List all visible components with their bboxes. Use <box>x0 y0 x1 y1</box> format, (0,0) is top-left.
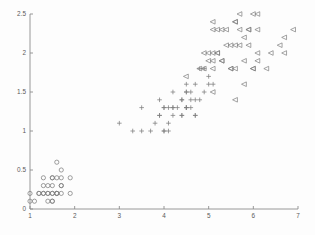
y-tick-label: 2.5 <box>17 10 26 17</box>
data-point-triangle-left <box>277 43 282 48</box>
data-point-plus <box>162 129 167 134</box>
data-point-plus <box>117 121 122 126</box>
data-point-plus <box>189 90 194 95</box>
data-point-plus <box>184 82 189 87</box>
data-point-plus <box>166 129 171 134</box>
data-point-triangle-left <box>255 59 260 64</box>
data-point-circle <box>46 199 50 203</box>
data-point-circle <box>59 168 63 172</box>
data-point-plus <box>197 98 202 103</box>
data-point-triangle-left <box>268 51 273 56</box>
series-group-circle <box>28 160 72 203</box>
data-point-plus <box>162 105 167 110</box>
data-point-plus <box>193 113 198 118</box>
data-point-triangle-left <box>233 20 238 25</box>
data-point-triangle-left <box>242 35 247 40</box>
data-point-circle <box>55 176 59 180</box>
y-tick-label: 0.5 <box>17 166 26 173</box>
data-point-plus <box>189 98 194 103</box>
data-point-triangle-left <box>183 74 188 79</box>
data-points-group <box>28 12 296 204</box>
data-point-triangle-left <box>210 66 215 71</box>
data-point-circle <box>55 160 59 164</box>
data-point-plus <box>139 129 144 134</box>
scatter-plot-figure: 123456700.511.522.5 <box>0 0 315 235</box>
x-tick-label: 2 <box>73 212 77 219</box>
data-point-circle <box>41 176 45 180</box>
data-point-triangle-left <box>246 43 251 48</box>
y-tick-label: 1.5 <box>17 88 26 95</box>
data-point-plus <box>153 121 158 126</box>
data-point-circle <box>55 191 59 195</box>
data-point-triangle-left <box>219 59 224 64</box>
data-point-plus <box>206 82 211 87</box>
data-point-plus <box>130 129 135 134</box>
data-point-plus <box>211 82 216 87</box>
data-point-circle <box>46 191 50 195</box>
data-point-circle <box>68 176 72 180</box>
data-point-plus <box>206 74 211 79</box>
data-point-plus <box>184 105 189 110</box>
y-tick-label: 0 <box>22 205 26 212</box>
data-point-circle <box>32 199 36 203</box>
data-point-plus <box>193 82 198 87</box>
plot-canvas: 123456700.511.522.5 <box>0 0 315 235</box>
data-point-plus <box>180 98 185 103</box>
data-point-triangle-left <box>264 66 269 71</box>
data-point-circle <box>50 199 54 203</box>
data-point-plus <box>166 121 171 126</box>
data-point-triangle-left <box>210 20 215 25</box>
y-tick-label: 2 <box>22 49 26 56</box>
data-point-plus <box>202 90 207 95</box>
data-point-plus <box>184 90 189 95</box>
data-point-plus <box>171 90 176 95</box>
data-point-circle <box>59 184 63 188</box>
data-point-plus <box>157 113 162 118</box>
data-point-triangle-left <box>242 59 247 64</box>
data-point-plus <box>193 98 198 103</box>
x-tick-label: 7 <box>296 212 300 219</box>
data-point-plus <box>139 105 144 110</box>
x-tick-label: 6 <box>252 212 256 219</box>
data-point-circle <box>50 176 54 180</box>
data-point-circle <box>46 184 50 188</box>
series-group-plus <box>117 66 215 133</box>
data-point-triangle-left <box>237 12 242 17</box>
data-point-triangle-left <box>246 27 251 32</box>
data-point-triangle-left <box>255 27 260 32</box>
y-tick-label: 1 <box>22 127 26 134</box>
data-point-triangle-left <box>255 51 260 56</box>
data-point-triangle-left <box>210 90 215 95</box>
data-point-plus <box>171 105 176 110</box>
x-tick-label: 5 <box>207 212 211 219</box>
tick-labels-group: 123456700.511.522.5 <box>17 10 300 219</box>
data-point-circle <box>68 191 72 195</box>
data-point-plus <box>171 113 176 118</box>
data-point-triangle-left <box>291 27 296 32</box>
data-point-plus <box>157 98 162 103</box>
x-tick-label: 1 <box>28 212 32 219</box>
data-point-triangle-left <box>282 51 287 56</box>
data-point-circle <box>41 184 45 188</box>
data-point-plus <box>148 129 153 134</box>
data-point-triangle-left <box>242 82 247 87</box>
data-point-plus <box>189 105 194 110</box>
data-point-triangle-left <box>250 66 255 71</box>
data-point-circle <box>59 191 63 195</box>
data-point-circle <box>37 191 41 195</box>
x-tick-label: 3 <box>118 212 122 219</box>
data-point-circle <box>59 176 63 180</box>
x-tick-label: 4 <box>162 212 166 219</box>
data-point-plus <box>166 105 171 110</box>
data-point-triangle-left <box>237 27 242 32</box>
data-point-triangle-left <box>233 98 238 103</box>
data-point-circle <box>50 184 54 188</box>
data-point-circle <box>41 191 45 195</box>
data-point-circle <box>50 191 54 195</box>
data-point-plus <box>180 113 185 118</box>
series-group-triangle-left <box>183 12 295 102</box>
data-point-triangle-left <box>282 35 287 40</box>
data-point-plus <box>175 105 180 110</box>
